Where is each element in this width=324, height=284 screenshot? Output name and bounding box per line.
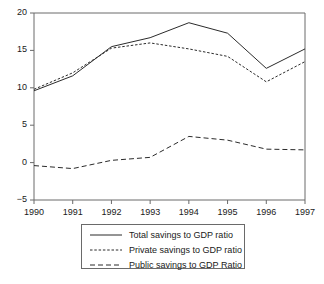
legend-item-private: Private savings to GDP ratio <box>82 242 244 257</box>
x-axis-tick-label: 1996 <box>246 208 286 217</box>
data-series-group <box>34 23 305 169</box>
x-axis-tick-label: 1990 <box>14 208 54 217</box>
y-axis-tick-label: 15 <box>0 45 27 54</box>
legend-label-total: Total savings to GDP ratio <box>129 230 233 240</box>
x-axis-tick-label: 1997 <box>285 208 324 217</box>
y-axis-tick-label: 5 <box>0 120 27 129</box>
x-axis-tick-label: 1994 <box>169 208 209 217</box>
chart-legend: Total savings to GDP ratio Private savin… <box>81 224 245 269</box>
y-axis-tick-label: 10 <box>0 83 27 92</box>
y-axis-tick-label: 20 <box>0 8 27 17</box>
legend-swatch-dashed-icon <box>89 260 123 270</box>
legend-label-public: Public savings to GDP Ratio <box>129 260 242 270</box>
legend-swatch-dotted-icon <box>89 245 123 255</box>
x-axis-tick-label: 1992 <box>91 208 131 217</box>
series-line-dashed <box>34 136 305 168</box>
legend-swatch-solid-icon <box>89 230 123 240</box>
x-axis-tick-label: 1991 <box>53 208 93 217</box>
y-axis-tick-label: 0 <box>0 158 27 167</box>
savings-gdp-line-chart: 20151050−5 19901991199219931994199519961… <box>0 0 324 284</box>
legend-item-total: Total savings to GDP ratio <box>82 227 244 242</box>
x-axis-tick-label: 1995 <box>208 208 248 217</box>
legend-item-public: Public savings to GDP Ratio <box>82 257 244 272</box>
legend-label-private: Private savings to GDP ratio <box>129 245 242 255</box>
x-axis-tick-label: 1993 <box>130 208 170 217</box>
x-axis-ticks <box>34 200 305 204</box>
y-axis-ticks <box>30 13 34 200</box>
y-axis-tick-label: −5 <box>0 195 27 204</box>
axis-lines <box>34 13 305 200</box>
